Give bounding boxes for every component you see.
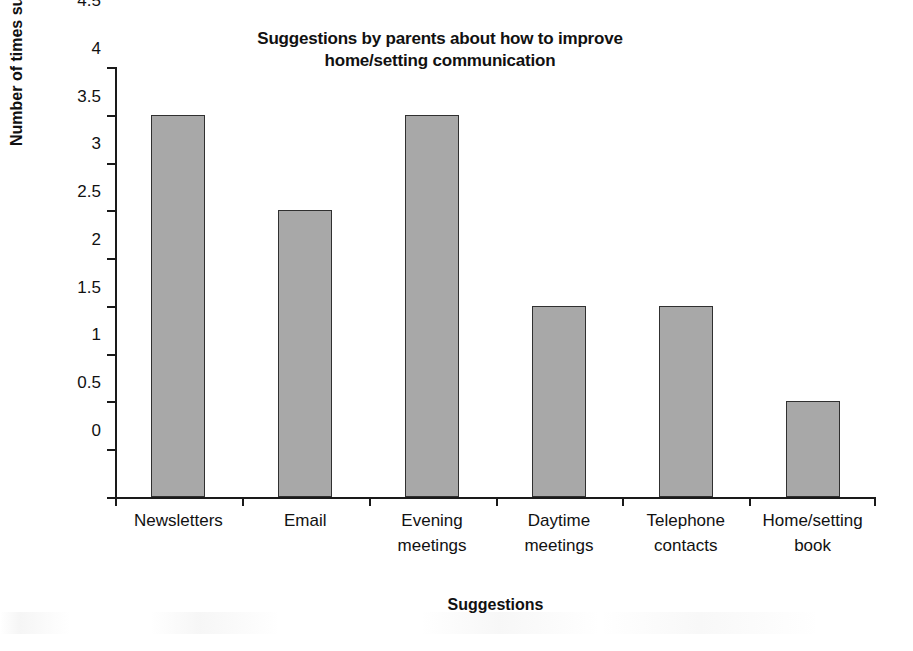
- x-axis-category-labels: NewslettersEmailEveningmeetingsDaytimeme…: [115, 508, 876, 578]
- bar: [786, 401, 840, 497]
- y-axis-tick-labels: 00.511.522.533.544.5: [41, 0, 101, 432]
- chart-title-line-1: Suggestions by parents about how to impr…: [180, 28, 700, 50]
- bar: [151, 115, 205, 497]
- x-axis-category-label: Eveningmeetings: [369, 508, 496, 558]
- x-axis-category-label-line: Email: [242, 508, 369, 533]
- bar: [532, 306, 586, 497]
- x-axis-tick: [115, 497, 117, 506]
- y-axis-tick-label: 3: [41, 135, 101, 152]
- y-axis-tick: [107, 67, 115, 69]
- x-axis-tick: [749, 497, 751, 506]
- scan-artifact: [0, 612, 913, 634]
- y-axis-tick-label: 2.5: [41, 183, 101, 200]
- x-axis-category-label-line: Evening: [369, 508, 496, 533]
- x-axis-category-label-line: Telephone: [622, 508, 749, 533]
- x-axis-category-label: Daytimemeetings: [496, 508, 623, 558]
- y-axis-tick: [107, 210, 115, 212]
- x-axis-tick: [496, 497, 498, 506]
- x-axis-category-label-line: contacts: [622, 533, 749, 558]
- y-axis-tick: [107, 497, 115, 499]
- y-axis-tick: [107, 258, 115, 260]
- x-axis-tick: [874, 497, 876, 506]
- y-axis-line: [115, 67, 117, 499]
- y-axis-tick: [107, 354, 115, 356]
- x-axis-category-label-line: Newsletters: [115, 508, 242, 533]
- y-axis-tick-label: 0: [41, 422, 101, 439]
- x-axis-category-label: Home/settingbook: [749, 508, 876, 558]
- y-axis-tick: [107, 306, 115, 308]
- plot-area: [115, 67, 876, 498]
- bar: [659, 306, 713, 497]
- bar: [278, 210, 332, 497]
- x-axis-category-label-line: meetings: [369, 533, 496, 558]
- y-axis-tick-label: 4: [41, 40, 101, 57]
- x-axis-category-label: Newsletters: [115, 508, 242, 533]
- y-axis-title: Number of times suggested: [8, 0, 26, 146]
- y-axis-tick-label: 0.5: [41, 374, 101, 391]
- y-axis-tick: [107, 163, 115, 165]
- y-axis-tick: [107, 449, 115, 451]
- x-axis-category-label-line: book: [749, 533, 876, 558]
- y-axis-tick: [107, 401, 115, 403]
- y-axis-tick: [107, 115, 115, 117]
- x-axis-category-label-line: Home/setting: [749, 508, 876, 533]
- y-axis-tick-label: 4.5: [41, 0, 101, 9]
- y-axis-tick-label: 1: [41, 326, 101, 343]
- x-axis-category-label-line: meetings: [496, 533, 623, 558]
- x-axis-category-label: Email: [242, 508, 369, 533]
- bar: [405, 115, 459, 497]
- x-axis-tick: [242, 497, 244, 506]
- y-axis-tick-label: 1.5: [41, 279, 101, 296]
- y-axis-tick-label: 2: [41, 231, 101, 248]
- x-axis-category-label-line: Daytime: [496, 508, 623, 533]
- y-axis-title-wrapper: Number of times suggested: [0, 0, 40, 400]
- y-axis-tick-label: 3.5: [41, 88, 101, 105]
- chart-title: Suggestions by parents about how to impr…: [180, 28, 700, 72]
- bar-chart: Suggestions by parents about how to impr…: [0, 0, 913, 651]
- x-axis-category-label: Telephonecontacts: [622, 508, 749, 558]
- x-axis-tick: [622, 497, 624, 506]
- x-axis-tick: [369, 497, 371, 506]
